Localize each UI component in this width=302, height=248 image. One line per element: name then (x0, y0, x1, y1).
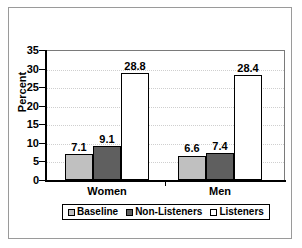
bar (93, 146, 121, 180)
x-axis-category-label: Women (67, 185, 147, 197)
legend-swatch-icon (210, 209, 217, 216)
legend-label: Listeners (219, 207, 263, 217)
legend-item: Listeners (210, 207, 263, 217)
category-divider-tick (165, 181, 166, 186)
y-axis-tick-label: 35 (19, 45, 39, 56)
bar-value-label: 28.8 (115, 61, 155, 72)
bar (178, 156, 206, 181)
y-axis-tick-label: 0 (19, 175, 39, 186)
y-axis-tick-label: 5 (19, 156, 39, 167)
y-axis-line (45, 50, 47, 181)
chart-figure: Percent 05101520253035 7.19.128.86.67.42… (0, 0, 302, 248)
y-axis-tick-label: 10 (19, 138, 39, 149)
bar (234, 75, 262, 180)
bar (206, 153, 234, 180)
legend-item: Non-Listeners (126, 207, 202, 217)
bar-value-label: 28.4 (228, 63, 268, 74)
legend-item: Baseline (68, 207, 118, 217)
y-axis-tick-label: 25 (19, 82, 39, 93)
y-axis-tick-label: 20 (19, 101, 39, 112)
legend-label: Baseline (77, 207, 118, 217)
legend-swatch-icon (68, 209, 75, 216)
x-axis-category-label: Men (180, 185, 260, 197)
legend-swatch-icon (126, 209, 133, 216)
plot-area: 7.19.128.86.67.428.4 (45, 50, 285, 180)
chart-legend: BaselineNon-ListenersListeners (62, 204, 270, 220)
bar (121, 73, 149, 180)
bar (65, 154, 93, 180)
legend-label: Non-Listeners (135, 207, 202, 217)
y-axis-tick-label: 30 (19, 64, 39, 75)
y-axis-tick-label: 15 (19, 119, 39, 130)
